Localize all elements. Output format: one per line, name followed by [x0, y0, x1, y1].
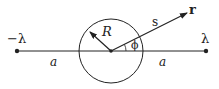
negative-line-charge-dot: [15, 49, 19, 53]
field-point-label: r: [189, 2, 196, 17]
right-distance-label: a: [159, 55, 166, 69]
right-charge-label: λ: [201, 31, 209, 46]
line-charges-cylinder-diagram: −λ λ a a R s r ϕ: [0, 0, 219, 89]
separation-label: s: [152, 15, 158, 29]
left-distance-label: a: [50, 55, 57, 69]
left-charge-label: −λ: [7, 31, 26, 46]
positive-line-charge-dot: [204, 49, 208, 53]
angle-arc: [125, 45, 127, 52]
separation-arrow: [111, 13, 187, 51]
angle-label: ϕ: [131, 39, 139, 52]
radius-label: R: [101, 24, 112, 39]
